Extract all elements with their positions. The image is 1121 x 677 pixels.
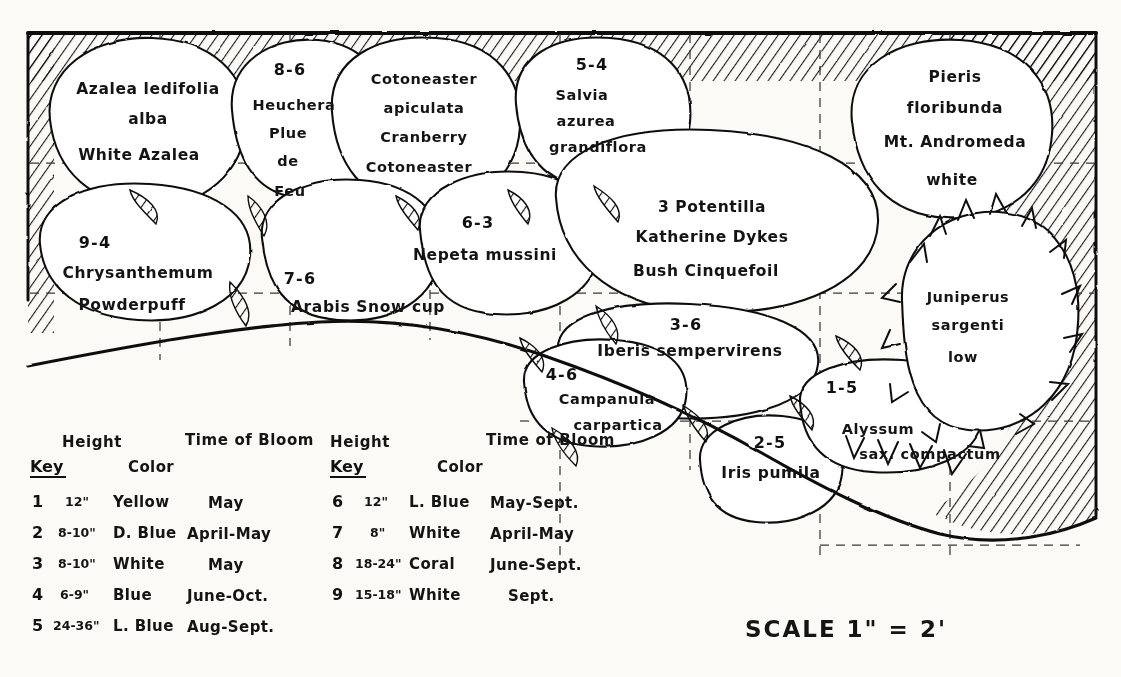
heuchera-line-4: Feu [274,183,305,199]
legend-right-header-height: Height [330,433,390,451]
legend-left-bloom-1: May [208,494,244,512]
legend-right-key-1: 6 [332,492,343,511]
pieris-line-1: Pieris [929,68,982,86]
heuchera-key: 8-6 [274,60,307,79]
cotoneaster-line-2: apiculata [384,100,465,116]
potentilla-line-3: Bush Cinquefoil [633,262,779,280]
campanula-key: 4-6 [546,365,579,384]
legend: Height Time of Bloom Height Time of Bloo… [30,431,615,636]
arabis-line-1: Arabis Snow cup [291,298,445,316]
legend-left-color-1: Yellow [112,493,170,511]
legend-right-color-1: L. Blue [409,493,470,511]
legend-left-height-4: 6-9" [60,587,89,602]
pieris-line-3: Mt. Andromeda [884,133,1027,151]
legend-row: 8 18-24" Coral June-Sept. [332,554,582,574]
legend-right-height-1: 12" [364,494,388,509]
legend-row: 3 8-10" White May [32,554,244,574]
azalea-line-1: Azalea ledifolia [76,80,219,98]
legend-left-bloom-5: Aug-Sept. [187,618,274,636]
alyssum-line-1: Alyssum [842,421,915,437]
legend-row: 7 8" White April-May [332,523,574,543]
alyssum-line-2: sax. compactum [859,446,1001,462]
planting-plan-drawing: Azalea ledifolia alba White Azalea 8-6 H… [0,0,1121,677]
iris-line-1: Iris pumila [721,464,820,482]
iberis-line-1: Iberis sempervirens [597,342,782,360]
legend-left-height-2: 8-10" [58,525,96,540]
salvia-key: 5-4 [576,55,609,74]
legend-right-bloom-3: June-Sept. [489,556,582,574]
legend-right-height-4: 15-18" [355,587,402,602]
cotoneaster-line-1: Cotoneaster [371,71,478,87]
legend-left-color-4: Blue [113,586,152,604]
salvia-line-1: Salvia [555,87,608,103]
legend-right-header-bloom: Time of Bloom [486,431,615,449]
arabis-key: 7-6 [284,269,317,288]
heuchera-line-3: de [277,153,298,169]
legend-right-color-3: Coral [409,555,455,573]
cotoneaster-line-4: Cotoneaster [366,159,473,175]
juniperus-line-1: Juniperus [926,289,1010,305]
azalea-line-3: White Azalea [78,146,200,164]
legend-row: 1 12" Yellow May [32,492,244,512]
legend-left-header-bloom: Time of Bloom [185,431,314,449]
potentilla-line-1: 3 Potentilla [658,198,766,216]
legend-row: 6 12" L. Blue May-Sept. [332,492,579,512]
legend-left-color-5: L. Blue [113,617,174,635]
iberis-key: 3-6 [670,315,703,334]
alyssum-key: 1-5 [826,378,859,397]
legend-row: 5 24-36" L. Blue Aug-Sept. [32,616,274,636]
legend-right-color-4: White [409,586,461,604]
iris-key: 2-5 [754,433,787,452]
legend-right-height-2: 8" [370,525,385,540]
chrysanthemum-key: 9-4 [79,233,112,252]
legend-left-height-1: 12" [65,494,89,509]
legend-right-key-2: 7 [332,523,343,542]
legend-left-bloom-2: April-May [187,525,271,543]
legend-right-key-4: 9 [332,585,343,604]
pieris-line-4: white [926,171,978,189]
legend-right-key-3: 8 [332,554,343,573]
legend-left-color-2: D. Blue [113,524,177,542]
legend-left-bloom-4: June-Oct. [186,587,268,605]
legend-left-color-3: White [113,555,165,573]
legend-right-height-3: 18-24" [355,556,402,571]
legend-left-height-3: 8-10" [58,556,96,571]
chrysanthemum-line-2: Powderpuff [78,296,185,314]
scale-note: SCALE 1" = 2' [745,616,947,642]
legend-row: 4 6-9" Blue June-Oct. [32,585,268,605]
legend-left-key-2: 2 [32,523,43,542]
heuchera-line-2: Plue [269,125,307,141]
legend-left-key-4: 4 [32,585,43,604]
legend-left-key-5: 5 [32,616,43,635]
heuchera-line-1: Heuchera [253,97,336,113]
pieris-line-2: floribunda [907,99,1003,117]
salvia-line-3: grandiflora [549,139,647,155]
legend-left-header-key: Key [30,457,64,476]
juniperus-line-2: sargenti [932,317,1005,333]
nepeta-line-1: Nepeta mussini [413,246,557,264]
nepeta-key: 6-3 [462,213,495,232]
legend-left-header-color: Color [128,458,174,476]
legend-row: 2 8-10" D. Blue April-May [32,523,271,543]
legend-left-height-5: 24-36" [53,618,100,633]
legend-left-key-3: 3 [32,554,43,573]
chrysanthemum-line-1: Chrysanthemum [63,264,214,282]
azalea-line-2: alba [128,110,168,128]
legend-row: 9 15-18" White Sept. [332,585,555,605]
campanula-line-1: Campanula [559,391,656,407]
legend-right-color-2: White [409,524,461,542]
legend-right-bloom-4: Sept. [508,587,555,605]
juniperus-line-3: low [948,349,978,365]
garden-plan-canvas: Azalea ledifolia alba White Azalea 8-6 H… [0,0,1121,677]
legend-left-bloom-3: May [208,556,244,574]
legend-right-header-key: Key [330,457,364,476]
potentilla-line-2: Katherine Dykes [636,228,789,246]
cotoneaster-line-3: Cranberry [380,129,467,145]
legend-left-header-height: Height [62,433,122,451]
legend-right-bloom-2: April-May [490,525,574,543]
legend-left-key-1: 1 [32,492,43,511]
legend-right-bloom-1: May-Sept. [490,494,579,512]
legend-right-header-color: Color [437,458,483,476]
salvia-line-2: azurea [557,113,616,129]
